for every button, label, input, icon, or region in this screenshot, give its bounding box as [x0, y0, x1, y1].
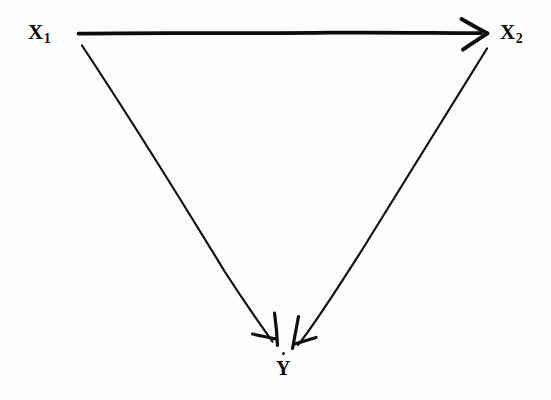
edge-x2-to-y-shaft: [298, 49, 487, 346]
node-x1: X1: [28, 22, 51, 46]
node-x1-base: X: [28, 20, 43, 44]
node-x1-subscript: 1: [44, 31, 51, 46]
node-y-base: Y: [276, 357, 290, 379]
edge-x1-to-x2-shaft: [79, 33, 482, 34]
diagram-canvas: [0, 0, 551, 400]
node-x2-subscript: 2: [516, 31, 523, 46]
edge-x1-to-y: [82, 46, 278, 346]
scan-speck-artifact: [282, 352, 285, 355]
node-y: Y: [276, 358, 291, 382]
edge-x1-to-y-shaft: [82, 46, 273, 342]
node-x2: X2: [500, 22, 523, 46]
node-x2-base: X: [500, 20, 515, 44]
edge-x2-to-y: [293, 49, 488, 349]
diagram-page: X1 X2 Y: [0, 0, 551, 400]
edge-x1-to-x2: [79, 19, 488, 50]
edge-x2-to-y-arrowhead: [293, 317, 317, 349]
